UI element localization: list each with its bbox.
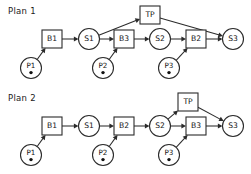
node-label: S2	[155, 121, 165, 130]
edge-line	[37, 138, 43, 147]
node-label: S3	[228, 34, 238, 43]
arrowhead-icon	[41, 135, 46, 140]
edge-s1-to-b2	[100, 124, 115, 129]
node-plan-1-b3[interactable]: B3	[114, 30, 134, 48]
edge-p3-to-b2	[176, 48, 187, 60]
product-dot-icon	[167, 158, 170, 161]
arrowhead-icon	[74, 124, 79, 129]
plan-title-plan-1: Plan 1	[8, 6, 36, 16]
node-plan-1-s2[interactable]: S2	[150, 29, 171, 50]
plan-diagram: P1B1S1TPB3P2S2B2P3S3P1B1S1B2P2S2TPB3P3S3…	[0, 0, 251, 174]
node-plan-2-b1[interactable]: B1	[42, 117, 62, 135]
node-label: B3	[119, 34, 129, 43]
product-dot-icon	[101, 71, 104, 74]
edge-line	[37, 51, 43, 60]
node-label: P1	[27, 61, 36, 70]
edge-s2-to-b2	[171, 37, 187, 42]
arrowhead-icon	[218, 124, 223, 129]
edge-b2-to-s2	[134, 124, 150, 129]
node-plan-1-p2[interactable]: P2	[93, 58, 114, 79]
edge-p2-to-b3	[109, 48, 117, 60]
node-plan-1-p1[interactable]: P1	[21, 58, 42, 79]
node-label: B3	[191, 121, 201, 130]
node-label: P3	[165, 148, 174, 157]
arrowhead-icon	[109, 37, 114, 42]
arrowhead-icon	[145, 37, 150, 42]
node-label: S1	[84, 34, 94, 43]
node-plan-1-s3[interactable]: S3	[223, 29, 244, 50]
edge-line	[176, 138, 185, 148]
node-plan-2-b3[interactable]: B3	[186, 117, 206, 135]
edge-b2-to-s3	[206, 37, 223, 42]
node-layer: P1B1S1TPB3P2S2B2P3S3P1B1S1B2P2S2TPB3P3S3	[21, 6, 244, 166]
node-label: P3	[165, 61, 174, 70]
node-plan-2-s1[interactable]: S1	[79, 116, 100, 137]
node-label: B2	[119, 121, 129, 130]
edge-line	[176, 51, 185, 61]
edge-s2-to-tp	[168, 111, 178, 120]
arrowhead-icon	[109, 124, 114, 129]
node-label: P2	[99, 148, 108, 157]
node-plan-2-b2[interactable]: B2	[114, 117, 134, 135]
arrowhead-icon	[218, 37, 223, 42]
edge-b3-to-s2	[134, 37, 150, 42]
node-plan-2-p3[interactable]: P3	[159, 145, 180, 166]
product-dot-icon	[29, 71, 32, 74]
plan-label-layer: Plan 1Plan 2	[8, 6, 36, 103]
arrowhead-icon	[181, 37, 186, 42]
node-plan-2-s2[interactable]: S2	[150, 116, 171, 137]
edge-p1-to-b1	[37, 48, 45, 60]
node-label: B2	[191, 34, 201, 43]
edge-b3-to-s3	[206, 124, 223, 129]
node-plan-1-b2[interactable]: B2	[186, 30, 206, 48]
node-label: TP	[144, 10, 155, 19]
node-label: B1	[47, 121, 57, 130]
arrowhead-icon	[181, 124, 186, 129]
product-dot-icon	[29, 158, 32, 161]
node-label: S3	[228, 121, 238, 130]
arrowhead-icon	[218, 32, 223, 37]
edge-line	[168, 113, 175, 119]
node-plan-2-s3[interactable]: S3	[223, 116, 244, 137]
node-label: B1	[47, 34, 57, 43]
plan-title-plan-2: Plan 2	[8, 93, 36, 103]
node-plan-2-p2[interactable]: P2	[93, 145, 114, 166]
edge-s2-to-b3	[171, 124, 187, 129]
product-dot-icon	[167, 71, 170, 74]
edge-line	[109, 51, 115, 60]
edge-line	[109, 138, 115, 147]
node-plan-1-p3[interactable]: P3	[159, 58, 180, 79]
edge-b1-to-s1	[62, 37, 79, 42]
arrowhead-icon	[113, 48, 118, 53]
node-label: S1	[84, 121, 94, 130]
node-label: P1	[27, 148, 36, 157]
node-plan-2-tp[interactable]: TP	[178, 93, 198, 111]
node-label: S2	[155, 34, 165, 43]
node-plan-1-b1[interactable]: B1	[42, 30, 62, 48]
node-label: P2	[99, 61, 108, 70]
arrowhead-icon	[145, 124, 150, 129]
edge-p2-to-b2	[109, 135, 117, 147]
arrowhead-icon	[113, 135, 118, 140]
arrowhead-icon	[74, 37, 79, 42]
node-plan-1-tp[interactable]: TP	[140, 6, 160, 24]
edge-p1-to-b1	[37, 135, 45, 147]
node-label: TP	[182, 97, 193, 106]
product-dot-icon	[101, 158, 104, 161]
node-plan-1-s1[interactable]: S1	[79, 29, 100, 50]
node-plan-2-p1[interactable]: P1	[21, 145, 42, 166]
edge-b1-to-s1	[62, 124, 79, 129]
arrowhead-icon	[41, 48, 46, 53]
edge-p3-to-b3	[176, 135, 187, 147]
edge-s1-to-b3	[100, 37, 115, 42]
